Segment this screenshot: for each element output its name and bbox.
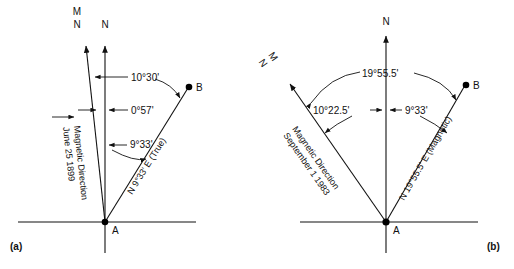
panel-b: M N N A B 19°55.5' 10°22.5' 9°33' Magnet…	[257, 16, 500, 253]
point-a-marker-b	[382, 218, 389, 225]
panel-label-a: (a)	[10, 241, 22, 252]
magnetic-north-label-n-b: N	[257, 57, 270, 69]
angle-arc-19-55-right-b	[414, 73, 456, 100]
true-north-label-b: N	[382, 16, 389, 27]
magnetic-direction-label-a: Magnetic Direction June 25 1899	[61, 125, 90, 201]
angle-label-mn-to-b-a: 10°30'	[131, 72, 159, 83]
angle-arc-19-55-left-b	[311, 72, 360, 103]
point-b-marker-b	[463, 82, 470, 89]
angle-label-true-n-to-b-b: 9°33'	[405, 105, 428, 116]
point-b-label-b: B	[473, 80, 480, 91]
true-north-label-a: N	[101, 19, 108, 30]
bearing-label-b: N 19°55.5' E (Magnetic)	[397, 114, 453, 202]
magnetic-north-label-b: M N	[257, 50, 281, 70]
point-a-label-b: A	[393, 225, 400, 236]
diagram-svg: M N N A B 10°30' 0°57' 9°33' Magnetic D	[0, 0, 514, 269]
point-b-marker-a	[186, 84, 193, 91]
point-a-marker-a	[102, 219, 109, 226]
angle-label-true-n-to-b-a: 9°33'	[130, 139, 153, 150]
point-b-label-a: B	[196, 82, 203, 93]
angle-leader-9-33-right-a	[112, 150, 146, 160]
panel-label-b: (b)	[487, 241, 500, 252]
magnetic-direction-label-b: Magnetic Direction September 1 1983	[281, 124, 341, 197]
angle-leader-10-22-left-b	[325, 116, 352, 133]
angle-label-mn-to-b-b: 19°55.5'	[362, 68, 399, 79]
panel-a: M N N A B 10°30' 0°57' 9°33' Magnetic D	[10, 6, 203, 253]
magnetic-north-label-n-a: N	[73, 19, 80, 30]
bearing-label-group-b: N 19°55.5' E (Magnetic)	[397, 114, 453, 202]
magnetic-north-label-m-a: M	[73, 6, 81, 17]
angle-label-mn-to-true-n-a: 0°57'	[131, 105, 154, 116]
point-a-label-a: A	[112, 225, 119, 236]
angle-label-mn-to-true-n-b: 10°22.5'	[313, 105, 350, 116]
figure-canvas: M N N A B 10°30' 0°57' 9°33' Magnetic D	[0, 0, 514, 269]
